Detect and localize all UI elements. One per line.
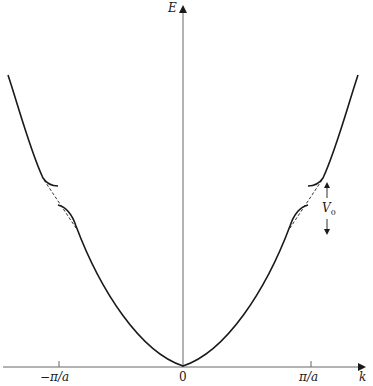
free-electron-dashed-right xyxy=(290,180,322,228)
gap-label-subscript: 0 xyxy=(331,208,336,217)
gap-label-v: V xyxy=(322,201,331,215)
upper-band-right-curve xyxy=(308,75,358,186)
tick-label-minus-pi-a: −π/a xyxy=(40,370,69,384)
k-axis-label: k xyxy=(359,370,366,384)
tick-label-pi-a: π/a xyxy=(299,370,318,384)
band-diagram-canvas xyxy=(0,0,373,386)
gap-label-v0: V0 xyxy=(322,201,336,217)
upper-band-left-curve xyxy=(8,75,58,186)
free-electron-dashed-left xyxy=(44,180,76,228)
tick-label-zero: 0 xyxy=(179,370,187,384)
e-axis-label: E xyxy=(168,1,177,15)
